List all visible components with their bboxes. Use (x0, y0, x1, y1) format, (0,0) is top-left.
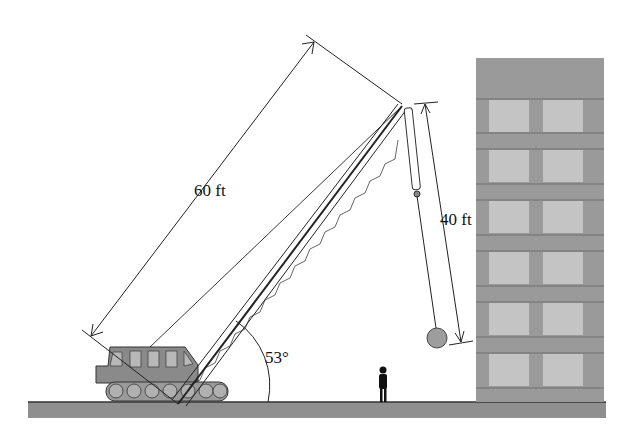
building (476, 58, 604, 402)
crane-diagram: 60 ft 40 ft 53° (0, 0, 626, 443)
crane-body (96, 347, 228, 401)
ground (28, 402, 606, 418)
diagram-canvas (0, 0, 626, 443)
boom-angle-label: 53° (265, 348, 289, 368)
boom-length-label: 60 ft (194, 181, 226, 201)
cable-length-label: 40 ft (440, 210, 472, 230)
person-figure (379, 367, 387, 403)
